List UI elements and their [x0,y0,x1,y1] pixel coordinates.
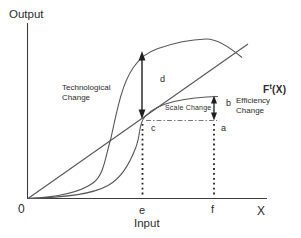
segment-d-label: d [160,74,165,85]
tick-f-label: f [211,203,214,217]
x-axis-symbol-label: X [257,204,265,219]
efficiency-change-label: Efficiency Change [236,96,270,116]
frontier-function-label: Ft(X) [263,83,286,97]
b-arrow-down-head-icon [211,113,217,121]
technological-change-label: Technological Change [62,83,110,103]
frontier-function-args: (X) [272,84,286,95]
technological-frontier-curve [28,39,242,199]
diagram-canvas [0,0,301,238]
segment-c-label: c [151,123,156,134]
scale-change-label: Scale Change [165,104,211,113]
production-function-diagram: Output Technological Change d Ft(X) Scal… [0,0,301,238]
segment-a-label: a [221,123,226,134]
segment-b-label: b [226,98,231,109]
b-arrow [211,96,217,121]
origin-tangent-ray [28,44,248,199]
x-axis-label: Input [134,216,160,230]
y-axis-label: Output [9,7,44,21]
origin-label: 0 [18,202,25,217]
d-arrow [139,51,146,119]
